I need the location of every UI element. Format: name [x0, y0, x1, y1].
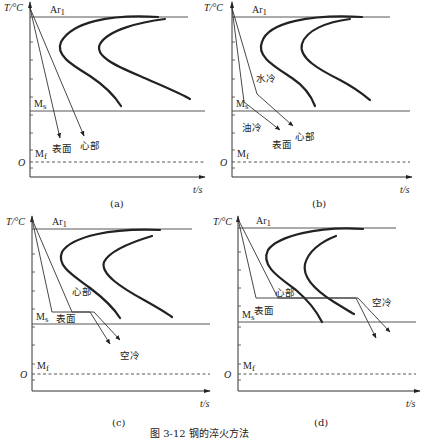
ar1-label: Ar1 [52, 216, 67, 229]
x-axis-label: t/s [406, 398, 416, 409]
panel-label: (d) [314, 417, 328, 428]
mf-label: Mf [37, 360, 49, 373]
quenching-methods-figure: T/°C Ar1 Ms Mf O t/s 表面 心部 (a) T/°C Ar1 … [0, 0, 423, 443]
core-label: 心部 [80, 140, 100, 151]
surface-cooling-curve [30, 8, 60, 138]
start-curve [261, 16, 362, 106]
mf-label: Mf [35, 148, 47, 161]
y-axis-label: T/°C [6, 216, 25, 227]
panel-d: T/°C Ar1 Ms Mf O t/s 心部 表面 空冷 (d) [213, 215, 420, 428]
surface-cooling-curve [232, 8, 280, 130]
y-axis-label: T/°C [204, 2, 223, 13]
core-label: 心部 [295, 131, 315, 142]
water-quench-label: 水冷 [256, 73, 276, 84]
origin-label: O [18, 157, 25, 168]
panel-label: (b) [312, 198, 326, 209]
panel-c: T/°C Ar1 Ms Mf O t/s 心部 表面 空冷 (c) [6, 216, 210, 428]
ms-label: Ms [34, 98, 47, 111]
x-axis-label: t/s [400, 184, 410, 195]
finish-curve [99, 19, 190, 99]
figure-caption: 图 3-12 钢的淬火方法 [150, 427, 249, 439]
oil-quench-label: 油冷 [242, 122, 262, 133]
surface-label: 表面 [254, 305, 274, 316]
surface-label: 表面 [56, 313, 76, 324]
core-label: 心部 [275, 287, 295, 298]
panel-label: (a) [110, 198, 124, 209]
surface-label: 表面 [272, 139, 292, 150]
air-cool-label: 空冷 [372, 297, 392, 308]
core-label: 心部 [72, 286, 92, 297]
panel-a: T/°C Ar1 Ms Mf O t/s 表面 心部 (a) [4, 2, 205, 209]
surface-cooling-curve [32, 219, 110, 344]
finish-curve [104, 236, 172, 317]
origin-label: O [20, 369, 27, 380]
panel-b: T/°C Ar1 Ms Mf O t/s 水冷 油冷 表面 心部 (b) [204, 2, 412, 209]
ms-label: Ms [36, 311, 49, 324]
finish-curve [302, 19, 370, 100]
panel-label: (c) [112, 417, 126, 428]
start-curve [266, 228, 363, 322]
ar1-label: Ar1 [256, 215, 271, 228]
ar1-label: Ar1 [50, 4, 65, 17]
start-curve [61, 230, 160, 318]
air-cool-label: 空冷 [120, 350, 140, 361]
mf-label: Mf [237, 148, 249, 161]
mf-label: Mf [243, 360, 255, 373]
x-axis-label: t/s [193, 184, 203, 195]
y-axis-label: T/°C [4, 2, 23, 13]
y-axis-label: T/°C [213, 216, 232, 227]
x-axis-label: t/s [200, 398, 210, 409]
ar1-label: Ar1 [252, 4, 267, 17]
surface-label: 表面 [52, 143, 72, 154]
origin-label: O [224, 369, 231, 380]
origin-label: O [220, 157, 227, 168]
finish-curve [305, 236, 354, 314]
ms-label: Ms [242, 309, 255, 322]
